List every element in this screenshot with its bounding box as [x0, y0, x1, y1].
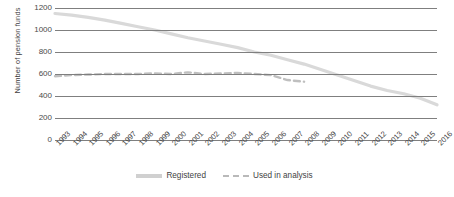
y-axis-tick-label: 1200 — [18, 4, 52, 12]
x-axis-tick-label: 2016 — [436, 129, 454, 147]
legend-item[interactable]: Used in analysis — [223, 172, 313, 180]
gridline — [55, 52, 437, 53]
y-axis-tick-label: 0 — [18, 136, 52, 144]
gridline — [55, 118, 437, 119]
y-axis-tick-label: 1000 — [18, 26, 52, 34]
y-axis-tick-label: 600 — [18, 70, 52, 78]
y-axis-tick-label: 200 — [18, 114, 52, 122]
gridline — [55, 96, 437, 97]
x-axis-tick-labels: 1993199419951996199719981999200020012002… — [55, 141, 437, 169]
y-axis-tick-label: 800 — [18, 48, 52, 56]
legend-item[interactable]: Registered — [136, 172, 206, 180]
legend-label: Used in analysis — [253, 172, 313, 180]
gridline — [55, 30, 437, 31]
plot-area — [55, 8, 437, 140]
gridline — [55, 8, 437, 9]
y-axis-tick-labels: 120010008006004002000 — [14, 0, 52, 197]
chart-legend: RegisteredUsed in analysis — [0, 172, 449, 180]
legend-swatch-icon — [136, 174, 162, 177]
y-axis-tick-label: 400 — [18, 92, 52, 100]
series-line — [55, 14, 437, 105]
gridline — [55, 74, 437, 75]
legend-label: Registered — [166, 172, 206, 180]
legend-swatch-icon — [223, 175, 249, 177]
